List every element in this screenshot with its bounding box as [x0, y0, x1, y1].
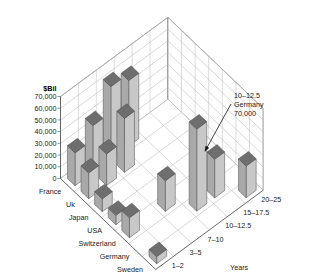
annotation-line-year: 10–12.5 [234, 91, 260, 100]
bar-chart-3d: 010,00020,00030,00040,00050,00060,00070,… [0, 0, 320, 278]
country-tick-label: USA [87, 226, 102, 235]
z-tick-label: 0 [53, 174, 57, 183]
bar-switzerland-7-10 [158, 166, 176, 211]
country-tick-label: Japan [69, 213, 89, 222]
annotation-line-country: Germany [234, 100, 264, 109]
bar-face-front [117, 111, 125, 172]
z-tick-label: 20,000 [35, 151, 57, 160]
z-tick-label: 70,000 [35, 92, 57, 101]
years-tick-label: 15–17.5 [243, 208, 269, 217]
years-tick-label: 7–10 [207, 235, 223, 244]
bar-face-side [215, 152, 225, 198]
bar-switzerland-1-2 [122, 203, 140, 238]
country-tick-label: France [39, 187, 61, 196]
bar-face-side [197, 122, 207, 211]
years-tick-label: 20–25 [261, 195, 281, 204]
country-tick-label: Uk [66, 200, 75, 209]
z-tick-label: 40,000 [35, 127, 57, 136]
chart-container: 010,00020,00030,00040,00050,00060,00070,… [0, 0, 320, 278]
country-tick-label: Sweden [117, 265, 143, 274]
bar-face-side [124, 111, 134, 172]
z-tick-label: 10,000 [35, 162, 57, 171]
z-axis-title: $Bil [43, 84, 56, 93]
years-tick-label: 1–2 [172, 261, 184, 270]
years-tick-label: 3–5 [190, 248, 202, 257]
bar-face-front [189, 122, 197, 211]
annotation-line-value: 70,000 [234, 109, 256, 118]
years-axis-title: Years [230, 263, 249, 272]
z-tick-label: 60,000 [35, 104, 57, 113]
bar-germany-15-17.5 [207, 145, 225, 198]
bar-uk-3-5 [99, 139, 117, 185]
country-tick-label: Switzerland [79, 239, 116, 248]
bar-germany-10-12.5 [189, 114, 207, 211]
country-tick-label: Germany [100, 252, 130, 261]
bar-face-front [207, 152, 215, 198]
years-tick-label: 10–12.5 [225, 221, 251, 230]
bar-uk-7-10 [117, 104, 135, 173]
z-tick-label: 50,000 [35, 116, 57, 125]
z-tick-label: 30,000 [35, 139, 57, 148]
bar-sweden-20-25 [239, 151, 257, 197]
